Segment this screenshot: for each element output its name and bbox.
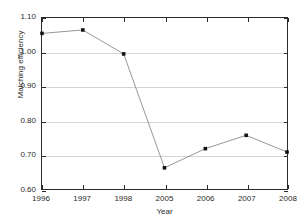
x-tick-mark-top bbox=[248, 18, 249, 22]
x-tick-mark-top bbox=[288, 18, 289, 22]
chart-container: Matching efficiency Year 0.600.700.800.9… bbox=[0, 0, 302, 224]
data-series-line bbox=[42, 18, 287, 189]
data-point-marker bbox=[285, 150, 289, 154]
data-point-marker bbox=[244, 134, 248, 138]
plot-area bbox=[41, 17, 288, 190]
x-tick-mark-top bbox=[42, 18, 43, 22]
y-tick-mark bbox=[42, 156, 46, 157]
x-tick-mark bbox=[288, 185, 289, 189]
x-tick-label: 2005 bbox=[145, 194, 185, 203]
data-point-marker bbox=[204, 147, 208, 151]
x-tick-label: 2006 bbox=[186, 194, 226, 203]
x-tick-label: 2008 bbox=[268, 194, 302, 203]
x-tick-label: 1998 bbox=[103, 194, 143, 203]
x-tick-mark-top bbox=[207, 18, 208, 22]
x-tick-mark bbox=[124, 185, 125, 189]
y-tick-label: 1.10 bbox=[2, 12, 36, 21]
x-tick-label: 1997 bbox=[62, 194, 102, 203]
y-tick-mark bbox=[42, 122, 46, 123]
y-tick-mark-right bbox=[284, 156, 288, 157]
y-tick-mark-right bbox=[284, 53, 288, 54]
x-tick-mark-top bbox=[83, 18, 84, 22]
series-polyline bbox=[42, 30, 287, 168]
data-point-marker bbox=[122, 52, 126, 56]
y-tick-label: 0.70 bbox=[2, 150, 36, 159]
y-tick-mark bbox=[42, 191, 46, 192]
y-tick-label: 0.60 bbox=[2, 185, 36, 194]
y-tick-mark-right bbox=[284, 87, 288, 88]
x-tick-label: 1996 bbox=[21, 194, 61, 203]
y-tick-mark-right bbox=[284, 191, 288, 192]
data-point-marker bbox=[40, 32, 44, 36]
y-tick-label: 0.80 bbox=[2, 116, 36, 125]
x-tick-label: 2007 bbox=[227, 194, 267, 203]
y-tick-mark bbox=[42, 53, 46, 54]
x-tick-mark bbox=[83, 185, 84, 189]
x-tick-mark bbox=[42, 185, 43, 189]
x-tick-mark-top bbox=[166, 18, 167, 22]
y-axis-title: Matching efficiency bbox=[16, 5, 25, 125]
y-tick-label: 1.00 bbox=[2, 47, 36, 56]
x-tick-mark-top bbox=[124, 18, 125, 22]
data-point-marker bbox=[81, 28, 85, 32]
x-axis-title: Year bbox=[41, 207, 288, 216]
x-tick-mark bbox=[207, 185, 208, 189]
x-tick-mark bbox=[166, 185, 167, 189]
data-point-marker bbox=[163, 166, 167, 170]
y-tick-mark-right bbox=[284, 122, 288, 123]
y-tick-mark bbox=[42, 87, 46, 88]
x-tick-mark bbox=[248, 185, 249, 189]
y-tick-label: 0.90 bbox=[2, 81, 36, 90]
